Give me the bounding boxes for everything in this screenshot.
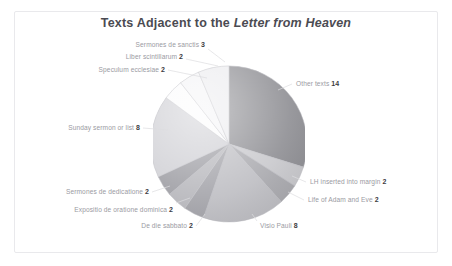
slice-label-text: Sunday sermon or list (68, 124, 134, 131)
slice-label-value: 2 (179, 53, 183, 60)
slice-label-text: Expositio de oratione dominica (74, 206, 167, 213)
slice-label-sermones-de-dedicatione: Sermones de dedicatione 2 (0, 188, 149, 195)
slice-label-value: 2 (169, 206, 173, 213)
slice-label-life-of-adam-and-eve: Life of Adam and Eve 2 (308, 196, 379, 203)
slice-label-text: De die sabbato (141, 222, 187, 229)
slice-label-text: Speculum ecclesiae (99, 66, 159, 73)
slice-label-text: Life of Adam and Eve (308, 196, 373, 203)
slice-label-speculum-ecclesiae: Speculum ecclesiae 2 (0, 66, 165, 73)
slice-label-value: 8 (136, 124, 140, 131)
slice-label-text: Visio Pauli (260, 222, 292, 229)
slice-label-value: 2 (161, 66, 165, 73)
slice-label-expositio-de-oratione-dominica: Expositio de oratione dominica 2 (0, 206, 173, 213)
slice-label-value: 2 (145, 188, 149, 195)
slice-label-text: LH inserted into margin (310, 178, 380, 185)
slice-label-value: 3 (201, 41, 205, 48)
slice-label-value: 14 (331, 80, 339, 87)
slice-label-text: Liber scintillarum (126, 53, 177, 60)
slice-label-value: 8 (294, 222, 298, 229)
pie-chart (153, 56, 305, 232)
slice-label-de-die-sabbato: De die sabbato 2 (0, 222, 193, 229)
slice-label-visio-pauli: Visio Pauli 8 (260, 222, 298, 229)
chart-title-italic: Letter from Heaven (234, 16, 352, 30)
chart-title-prefix: Texts Adjacent to the (101, 16, 234, 30)
slice-label-sunday-sermon-or-list: Sunday sermon or list 8 (0, 124, 140, 131)
slice-label-value: 2 (382, 178, 386, 185)
slice-label-text: Sermones de dedicatione (66, 188, 143, 195)
slice-label-other-texts: Other texts 14 (296, 80, 339, 87)
slice-label-text: Sermones de sanctis (136, 41, 199, 48)
slice-label-text: Other texts (296, 80, 329, 87)
pie-chart-svg (153, 56, 305, 232)
slice-label-value: 2 (375, 196, 379, 203)
slice-label-liber-scintillarum: Liber scintillarum 2 (0, 53, 183, 60)
slice-label-lh-inserted-into-margin: LH inserted into margin 2 (310, 178, 386, 185)
slice-label-value: 2 (189, 222, 193, 229)
page-title: Texts Adjacent to the Letter from Heaven (0, 16, 452, 30)
slice-label-sermones-de-sanctis: Sermones de sanctis 3 (0, 41, 205, 48)
